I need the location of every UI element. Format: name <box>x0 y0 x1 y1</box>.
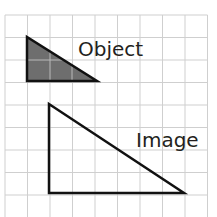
object-label: Object <box>78 37 143 61</box>
grid-diagram: Object Image <box>0 0 217 217</box>
image-label: Image <box>136 128 199 152</box>
